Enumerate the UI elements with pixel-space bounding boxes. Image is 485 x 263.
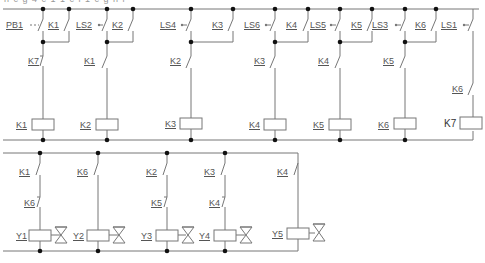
k4-holding-contact: [303, 19, 308, 31]
label-coil-k4: K4: [249, 120, 260, 130]
label-k4-no: K4: [318, 56, 329, 66]
k1-no-contact: [102, 56, 107, 68]
label-b-k6-nc: K6: [24, 198, 35, 208]
label-b-k6: K6: [77, 167, 88, 177]
k2-no-contact: [186, 56, 191, 68]
label-k5-hold: K5: [351, 20, 362, 30]
k6-no-contact: [468, 83, 473, 95]
label-coil-k2: K2: [80, 120, 91, 130]
k5-no-contact: [400, 56, 405, 68]
coil-y5: [287, 228, 309, 239]
label-b-k4: K4: [277, 167, 288, 177]
k7-nc-contact: [40, 56, 43, 66]
k6-contact: [94, 163, 98, 175]
coil-y3: [156, 230, 178, 241]
k3-contact: [221, 163, 225, 175]
coil-y4: [214, 230, 236, 241]
label-k6-no: K6: [452, 84, 463, 94]
label-ls3: LS3: [372, 20, 388, 30]
label-k2-hold: K2: [112, 20, 123, 30]
k1-holding-contact: [64, 19, 69, 31]
label-coil-k1: K1: [16, 120, 27, 130]
label-k7-nc: K7: [28, 56, 39, 66]
k3-holding-contact: [228, 19, 233, 31]
coil-y2: [87, 230, 109, 241]
k4-no-contact: [335, 56, 340, 68]
k5-nc-contact: [164, 197, 167, 207]
top-circuit: [3, 7, 482, 143]
label-k6-hold: K6: [415, 20, 426, 30]
k6-holding-contact: [431, 19, 436, 31]
coil-k7: [460, 117, 482, 129]
coil-y1: [29, 230, 51, 241]
label-b-k1: K1: [19, 167, 30, 177]
label-ls4: LS4: [160, 20, 176, 30]
k2-contact: [163, 163, 167, 175]
label-b-k4-nc: K4: [209, 198, 220, 208]
k4-nc-contact: [222, 197, 225, 207]
coil-k4: [264, 119, 286, 130]
coil-k6: [394, 118, 416, 129]
ladder-diagram: [0, 0, 485, 263]
label-y2: Y2: [73, 231, 84, 241]
label-coil-k7: K7: [444, 119, 456, 129]
coil-k3: [180, 118, 202, 129]
k3-no-contact: [270, 56, 275, 68]
label-k1-hold: K1: [48, 20, 59, 30]
label-k4-hold: K4: [286, 20, 297, 30]
label-b-k3: K3: [204, 167, 215, 177]
k6-nc-contact: [37, 197, 40, 207]
label-y1: Y1: [16, 231, 27, 241]
k1-contact: [36, 163, 40, 175]
label-coil-k5: K5: [313, 120, 324, 130]
label-pb1: PB1: [6, 20, 23, 30]
k4-contact: [294, 163, 298, 175]
coil-k2: [96, 119, 118, 130]
label-b-k5-nc: K5: [151, 198, 162, 208]
label-y5: Y5: [272, 229, 283, 239]
label-k2-no: K2: [170, 56, 181, 66]
k2-holding-contact: [128, 19, 133, 31]
label-y4: Y4: [199, 231, 210, 241]
label-k3-hold: K3: [212, 20, 223, 30]
label-b-k2: K2: [146, 167, 157, 177]
label-ls1: LS1: [441, 20, 457, 30]
label-ls2: LS2: [76, 20, 92, 30]
label-y3: Y3: [141, 231, 152, 241]
label-coil-k3: K3: [165, 119, 176, 129]
coil-k1: [32, 119, 54, 130]
label-k5-no: K5: [383, 56, 394, 66]
label-ls6: LS6: [244, 20, 260, 30]
label-k1-no: K1: [84, 56, 95, 66]
label-k3-no: K3: [254, 56, 265, 66]
label-coil-k6: K6: [378, 120, 389, 130]
coil-k5: [329, 119, 351, 130]
label-ls5: LS5: [310, 20, 326, 30]
